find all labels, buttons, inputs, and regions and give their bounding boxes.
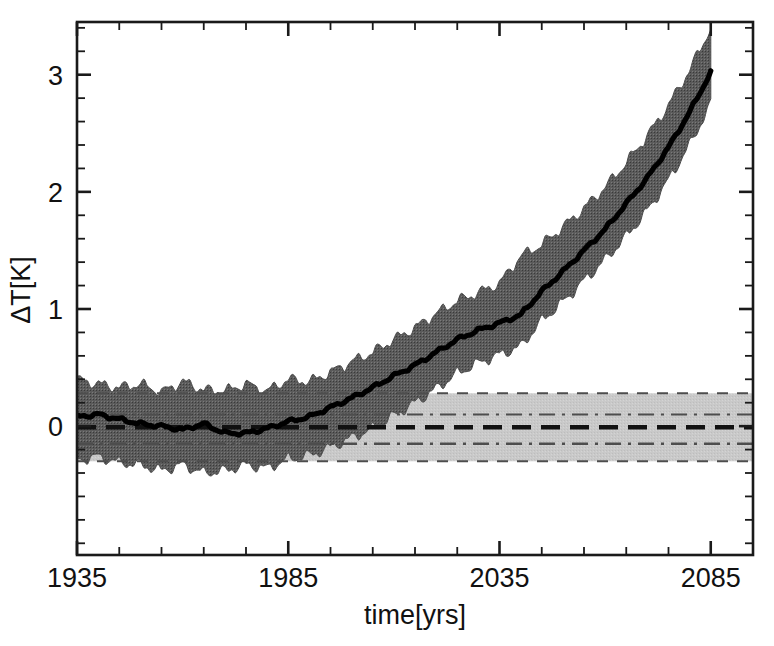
y-axis-title: ΔT[K] — [6, 256, 36, 324]
x-tick-label: 1935 — [47, 563, 107, 593]
y-tick-label: 1 — [48, 295, 63, 325]
temperature-projection-chart: 1935198520352085 0123 time[yrs] ΔT[K] — [0, 0, 774, 646]
chart-background — [0, 0, 774, 646]
x-axis-title: time[yrs] — [364, 600, 466, 630]
y-tick-label: 2 — [48, 178, 63, 208]
x-tick-label: 2085 — [681, 563, 741, 593]
figure-root: 1935198520352085 0123 time[yrs] ΔT[K] — [0, 0, 774, 646]
y-tick-label: 0 — [48, 412, 63, 442]
x-tick-label: 2035 — [469, 563, 529, 593]
y-tick-label: 3 — [48, 61, 63, 91]
x-tick-label: 1985 — [258, 563, 318, 593]
